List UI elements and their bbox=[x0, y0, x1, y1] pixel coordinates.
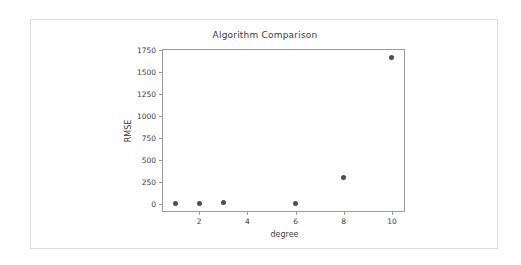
y-axis-tick bbox=[159, 72, 163, 73]
y-axis-tick-label: 1250 bbox=[137, 89, 156, 98]
figure-card: Algorithm Comparison degree RMSE 0250500… bbox=[30, 19, 498, 249]
y-axis-tick-label: 750 bbox=[142, 133, 156, 142]
x-axis-tick bbox=[344, 211, 345, 215]
y-axis-tick bbox=[159, 94, 163, 95]
data-point bbox=[293, 201, 298, 206]
y-axis-tick bbox=[159, 50, 163, 51]
y-axis-tick bbox=[159, 204, 163, 205]
x-axis-tick-label: 10 bbox=[387, 217, 397, 226]
x-axis-tick-label: 8 bbox=[341, 217, 346, 226]
x-axis-tick bbox=[296, 211, 297, 215]
y-axis-tick bbox=[159, 160, 163, 161]
y-axis-label: RMSE bbox=[124, 119, 133, 142]
y-axis-tick-label: 0 bbox=[151, 199, 156, 208]
x-axis-tick bbox=[247, 211, 248, 215]
y-axis-tick bbox=[159, 182, 163, 183]
y-axis-tick-label: 1750 bbox=[137, 46, 156, 55]
y-axis-tick-label: 500 bbox=[142, 155, 156, 164]
data-point bbox=[389, 55, 394, 60]
x-axis-tick-label: 2 bbox=[197, 217, 202, 226]
x-axis-tick-label: 4 bbox=[245, 217, 250, 226]
x-axis-tick bbox=[392, 211, 393, 215]
y-axis-tick bbox=[159, 116, 163, 117]
plot-axes: degree RMSE 0250500750100012501500175024… bbox=[162, 49, 405, 212]
y-axis-tick-label: 1500 bbox=[137, 67, 156, 76]
x-axis-tick bbox=[199, 211, 200, 215]
plot-surface bbox=[163, 50, 404, 211]
y-axis-tick-label: 250 bbox=[142, 177, 156, 186]
y-axis-tick bbox=[159, 138, 163, 139]
data-point bbox=[221, 200, 226, 205]
data-point bbox=[197, 201, 202, 206]
data-point bbox=[341, 175, 346, 180]
x-axis-label: degree bbox=[163, 230, 406, 239]
chart-title: Algorithm Comparison bbox=[31, 30, 499, 40]
data-point bbox=[173, 201, 178, 206]
x-axis-tick-label: 6 bbox=[293, 217, 298, 226]
y-axis-tick-label: 1000 bbox=[137, 111, 156, 120]
